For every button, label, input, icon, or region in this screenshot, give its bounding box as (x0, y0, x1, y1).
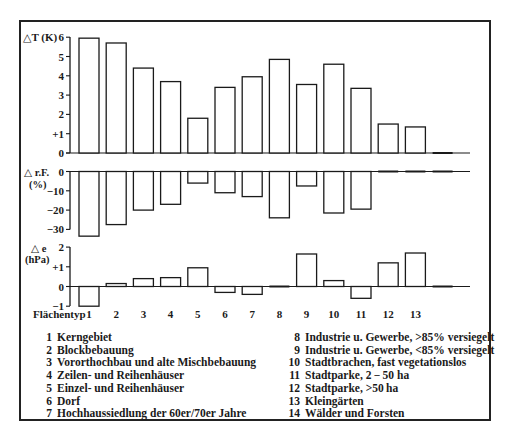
legend-item: 3Vororthochbau und alte Mischbebauung (42, 356, 256, 369)
legend-item-label: Vororthochbau und alte Mischbebauung (57, 356, 256, 368)
legend-item-number: 11 (283, 369, 300, 382)
y-tick-label: 2 (59, 108, 65, 120)
legend-item: 5Einzel- und Reihenhäuser (42, 382, 256, 395)
y-tick-label: +1 (52, 261, 64, 273)
x-tick-label: 8 (277, 308, 283, 320)
y-tick-label: 3 (59, 89, 65, 101)
legend-item-number: 14 (283, 407, 300, 420)
legend-item-label: Kerngebiet (57, 331, 112, 343)
bar (378, 263, 398, 287)
legend-item: 4Zeilen- und Reihenhäuser (42, 369, 256, 382)
bar (378, 124, 398, 153)
legend-item-number: 7 (42, 407, 52, 420)
bar (188, 118, 208, 153)
y-tick-label: 0 (59, 166, 65, 178)
legend-item-number: 4 (42, 369, 52, 382)
x-tick-label: 12 (383, 308, 395, 320)
bar (351, 88, 371, 153)
legend-item: 10Stadtbrachen, fast vegetationslos (283, 356, 494, 369)
bar (133, 279, 153, 287)
bar (324, 64, 344, 153)
bar (161, 278, 181, 287)
y-tick-label: 5 (59, 51, 65, 63)
bar (324, 172, 344, 213)
y-tick-label: 2 (59, 241, 65, 253)
bar (324, 281, 344, 287)
legend-item-label: Dorf (57, 395, 80, 407)
y-tick-label: −30 (47, 223, 65, 235)
legend-item-label: Stadtparke, >50 ha (305, 382, 398, 394)
bar (269, 59, 289, 153)
legend-item-number: 13 (283, 395, 300, 408)
dT-axis-label: △T (K) (23, 31, 58, 44)
bar (106, 172, 126, 225)
y-tick-label: 0 (59, 147, 65, 159)
x-tick-label: 10 (328, 308, 340, 320)
legend-right: 8Industrie u. Gewerbe, >85% versiegelt9I… (283, 331, 494, 420)
legend-item: 7Hochhaussiedlung der 60er/70er Jahre (42, 407, 256, 420)
legend-item-label: Hochhaussiedlung der 60er/70er Jahre (57, 407, 246, 419)
bar (405, 127, 425, 153)
legend-item-number: 2 (42, 344, 52, 357)
bar (79, 172, 99, 237)
de-axis-label-line2: (hPa) (25, 254, 50, 266)
y-tick-label: 0 (59, 281, 65, 293)
legend-item-label: Zeilen- und Reihenhäuser (57, 369, 184, 381)
legend-item-label: Industrie u. Gewerbe, <85% versiegelt (305, 344, 494, 356)
bar (79, 287, 99, 307)
y-tick-label: 4 (59, 70, 65, 82)
x-tick-label: 1 (86, 308, 92, 320)
bar (215, 87, 235, 153)
x-tick-label: 5 (195, 308, 201, 320)
legend-item-number: 6 (42, 395, 52, 408)
bar (242, 172, 262, 197)
legend-item-label: Kleingärten (305, 395, 364, 407)
legend-item: 1Kerngebiet (42, 331, 256, 344)
bar (188, 172, 208, 184)
y-tick-label: +1 (52, 128, 64, 140)
legend-item-number: 1 (42, 331, 52, 344)
de-panel: 2+10−1 (52, 241, 470, 312)
x-tick-label: 3 (141, 308, 147, 320)
legend-item-number: 5 (42, 382, 52, 395)
bar (351, 287, 371, 299)
legend-item-label: Blockbebauung (57, 344, 134, 356)
bar (269, 172, 289, 218)
legend-item: 6Dorf (42, 395, 256, 408)
bar (297, 254, 317, 287)
bar (242, 287, 262, 295)
legend-item: 8Industrie u. Gewerbe, >85% versiegelt (283, 331, 494, 344)
x-tick-label: 6 (222, 308, 228, 320)
bar (242, 77, 262, 153)
y-tick-label: −10 (47, 185, 65, 197)
legend-item-number: 8 (283, 331, 300, 344)
bar (215, 172, 235, 193)
legend-item-number: 10 (283, 356, 300, 369)
bar (79, 38, 99, 153)
legend-item: 2Blockbebauung (42, 344, 256, 357)
bar (188, 268, 208, 287)
x-tick-label: 2 (113, 308, 119, 320)
de-axis-label-line1: △ e (31, 243, 47, 254)
legend-item: 13Kleingärten (283, 395, 494, 408)
legend-item-label: Einzel- und Reihenhäuser (57, 382, 184, 394)
legend-item-number: 12 (283, 382, 300, 395)
bar (133, 172, 153, 211)
legend-item-number: 3 (42, 356, 52, 369)
bar (405, 253, 425, 286)
dT-panel: 65432+10 (52, 31, 470, 159)
bar (106, 284, 126, 287)
bar (133, 68, 153, 153)
dRF-axis-label-line1: △ r.F. (24, 167, 49, 178)
y-tick-label: 6 (59, 31, 65, 43)
x-tick-label: 11 (356, 308, 366, 320)
bar (161, 82, 181, 153)
legend-item-number: 9 (283, 344, 300, 357)
legend-item-label: Stadtparke, 2 − 50 ha (305, 369, 409, 381)
legend-left: 1Kerngebiet2Blockbebauung3Vororthochbau … (42, 331, 256, 420)
x-tick-label: 9 (304, 308, 310, 320)
bar (215, 287, 235, 293)
y-tick-label: −20 (47, 204, 65, 216)
legend-item: 12Stadtparke, >50 ha (283, 382, 494, 395)
bar (106, 43, 126, 153)
